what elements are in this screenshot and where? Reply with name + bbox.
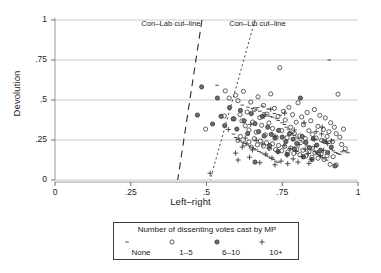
data-point xyxy=(333,164,337,168)
data-point xyxy=(235,127,239,131)
data-point xyxy=(300,115,304,119)
data-point xyxy=(343,147,347,151)
legend-label: 1–5 xyxy=(165,248,207,257)
data-point xyxy=(260,123,264,127)
data-point xyxy=(285,161,290,166)
data-point xyxy=(305,110,309,114)
data-point xyxy=(322,139,326,143)
data-point xyxy=(326,150,330,154)
data-point xyxy=(332,125,336,129)
data-point xyxy=(250,147,255,152)
data-point xyxy=(240,144,245,149)
legend-label: 6–10 xyxy=(210,248,252,257)
data-point xyxy=(276,114,280,118)
legend-marker xyxy=(259,239,264,244)
data-point xyxy=(301,123,305,127)
data-point xyxy=(226,127,231,132)
devolution-left-right-scatter-figure: Devolution Left–right 0.25.5.751 0.25.5.… xyxy=(0,0,381,273)
data-point xyxy=(238,112,242,116)
data-point xyxy=(238,108,242,112)
data-point xyxy=(300,134,304,138)
y-tick-label: .25 xyxy=(21,134,47,144)
data-point xyxy=(329,138,334,143)
data-point xyxy=(223,124,227,128)
data-point xyxy=(336,92,340,96)
y-tick-label: 0 xyxy=(21,174,47,184)
legend-symbol-dash-icon xyxy=(120,236,162,248)
legend-symbol-plus-icon xyxy=(255,236,297,248)
data-point xyxy=(272,162,277,167)
legend-entry: 10+ xyxy=(255,236,297,257)
data-point xyxy=(312,108,316,112)
data-point xyxy=(236,99,240,103)
data-point xyxy=(310,132,314,136)
data-point xyxy=(249,100,253,104)
data-point xyxy=(340,142,344,146)
data-point xyxy=(282,111,287,116)
legend-symbol-open-circle-icon xyxy=(165,236,207,248)
data-point xyxy=(223,89,227,93)
legend-entry: None xyxy=(120,236,162,257)
data-point xyxy=(219,114,223,118)
data-point xyxy=(269,92,273,96)
cut-line-label: Con–Lab cut–line xyxy=(141,19,200,28)
data-point xyxy=(338,135,342,139)
data-point xyxy=(256,95,260,99)
data-point xyxy=(242,119,246,123)
data-point xyxy=(254,138,259,143)
data-point xyxy=(195,113,199,117)
data-point xyxy=(208,171,213,176)
y-axis-title: Devolution xyxy=(11,54,22,134)
data-point xyxy=(334,132,338,136)
data-point xyxy=(319,131,324,136)
data-point xyxy=(266,125,270,129)
data-point xyxy=(301,148,305,152)
legend-label: 10+ xyxy=(255,248,297,257)
data-point xyxy=(277,143,281,147)
data-points xyxy=(195,60,349,176)
data-point xyxy=(328,162,332,166)
data-point xyxy=(203,127,207,131)
data-point xyxy=(210,122,214,126)
data-point xyxy=(296,101,300,105)
legend-label: None xyxy=(120,248,162,257)
data-point xyxy=(278,159,283,164)
x-axis-title: Left–right xyxy=(0,196,381,207)
data-point xyxy=(294,120,298,124)
data-point xyxy=(329,121,333,125)
legend-symbol-filled-circle-icon xyxy=(210,236,252,248)
legend-marker xyxy=(170,240,174,244)
data-point xyxy=(227,106,231,110)
legend-title: Number of dissenting votes cast by MP xyxy=(114,225,300,234)
data-point xyxy=(291,156,296,161)
legend-entry: 6–10 xyxy=(210,236,252,257)
y-tick-label: .75 xyxy=(21,54,47,64)
data-point xyxy=(316,124,320,128)
data-point xyxy=(331,155,335,159)
data-point xyxy=(231,117,235,121)
data-point xyxy=(270,126,274,130)
data-point xyxy=(247,155,252,160)
data-point xyxy=(257,130,261,134)
legend-entry: 1–5 xyxy=(165,236,207,257)
data-point xyxy=(318,113,322,117)
data-point xyxy=(269,132,273,136)
data-point xyxy=(290,113,294,117)
data-point xyxy=(257,160,262,165)
data-point xyxy=(278,66,282,70)
cut-line-label: Con–Lib cut–line xyxy=(229,19,286,28)
data-point xyxy=(249,112,253,116)
data-point xyxy=(325,134,329,138)
data-point xyxy=(291,137,295,141)
data-point xyxy=(304,140,308,144)
data-point xyxy=(235,157,240,162)
data-point xyxy=(246,132,250,136)
x-tick-label: 1 xyxy=(343,187,373,197)
data-point xyxy=(341,127,345,131)
y-tick-label: .5 xyxy=(21,94,47,104)
data-point xyxy=(262,134,266,138)
x-tick-label: 0 xyxy=(40,187,70,197)
data-point xyxy=(258,139,262,143)
data-point xyxy=(295,141,299,145)
data-point xyxy=(298,96,302,100)
